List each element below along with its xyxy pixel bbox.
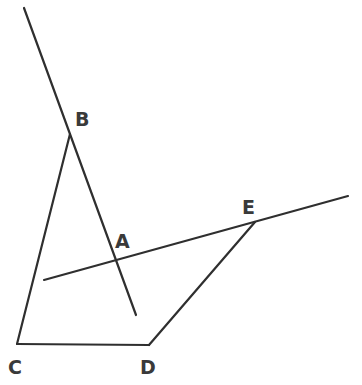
labels: B A E C D <box>8 108 255 378</box>
segment-BC <box>17 134 70 344</box>
line-through-A-E <box>44 196 348 280</box>
label-b: B <box>75 108 89 130</box>
geometry-diagram: B A E C D <box>0 0 362 385</box>
label-d: D <box>140 356 156 378</box>
segment-CD <box>17 344 149 345</box>
label-e: E <box>242 196 255 218</box>
segment-DE <box>149 222 255 345</box>
label-a: A <box>115 230 130 252</box>
label-c: C <box>8 356 22 378</box>
segments <box>17 8 348 345</box>
